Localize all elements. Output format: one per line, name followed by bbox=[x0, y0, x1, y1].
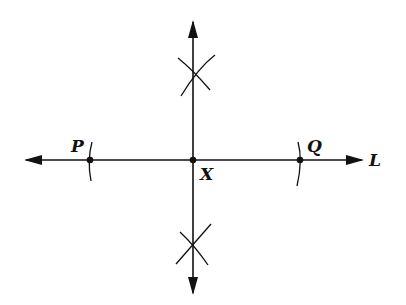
point-X bbox=[190, 157, 197, 164]
point-P bbox=[87, 157, 94, 164]
label-L: L bbox=[369, 152, 381, 169]
arc-at-Q bbox=[297, 142, 300, 186]
upper-arc-intersection bbox=[178, 55, 215, 96]
point-Q bbox=[297, 157, 304, 164]
top-arrowhead-icon bbox=[188, 20, 198, 38]
bottom-arrowhead-icon bbox=[188, 277, 198, 295]
label-X: X bbox=[200, 166, 213, 183]
construction-diagram bbox=[0, 0, 406, 305]
left-arrowhead-icon bbox=[24, 155, 42, 165]
label-P: P bbox=[71, 138, 84, 155]
label-Q: Q bbox=[307, 138, 322, 155]
right-arrowhead-icon bbox=[346, 155, 364, 165]
